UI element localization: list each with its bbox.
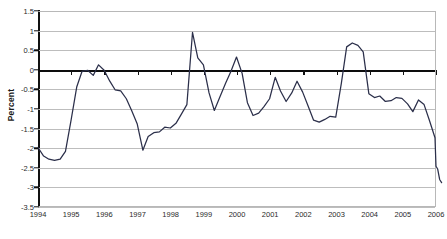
y-axis-tick-labels: 1.510.50-0.5-1-1.5-2-2.5-3-3.5 [14, 11, 36, 207]
x-tick-label: 1999 [195, 210, 212, 219]
y-tick-label: -1 [27, 105, 34, 114]
x-tick-label: 2000 [229, 210, 246, 219]
x-tick-label: 1996 [96, 210, 113, 219]
series-layer [38, 11, 435, 206]
x-tick-label: 1997 [129, 210, 146, 219]
y-tick-label: 1.5 [24, 7, 34, 16]
x-tick-label: 2001 [262, 210, 279, 219]
x-tick-label: 1995 [63, 210, 80, 219]
y-tick-label: -3 [27, 183, 34, 192]
x-axis-tick-labels: 1994199519961997199819992000200120022003… [38, 210, 436, 232]
y-tick-label: -2 [27, 144, 34, 153]
y-tick-label: 0.5 [24, 46, 34, 55]
x-tick-label: 2002 [295, 210, 312, 219]
y-tick-mark [34, 206, 39, 207]
series-line-percent [38, 32, 442, 182]
y-tick-label: -0.5 [21, 85, 34, 94]
x-tick-label: 1998 [162, 210, 179, 219]
x-tick-label: 2006 [428, 210, 445, 219]
x-tick-label: 2004 [361, 210, 378, 219]
gridline [38, 207, 435, 208]
x-tick-label: 1994 [30, 210, 47, 219]
x-tick-label: 2003 [328, 210, 345, 219]
y-tick-label: -1.5 [21, 124, 34, 133]
x-tick-mark [436, 70, 437, 75]
x-tick-label: 2005 [394, 210, 411, 219]
plot-area [38, 11, 436, 207]
y-tick-label: -2.5 [21, 163, 34, 172]
line-chart: Percent 1.510.50-0.5-1-1.5-2-2.5-3-3.5 1… [0, 0, 447, 239]
